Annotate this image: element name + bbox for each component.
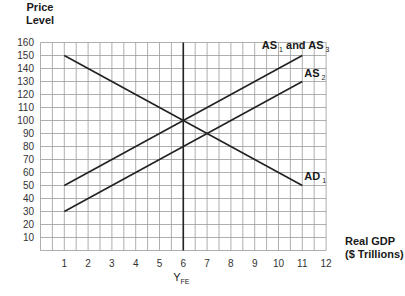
yfe-label: YFE	[173, 271, 190, 285]
x-axis-title-line1: Real GDP	[345, 235, 395, 247]
y-axis-title-line2: Level	[26, 14, 54, 26]
y-tick-label: 50	[23, 180, 35, 191]
full-employment-line: YFE	[173, 43, 190, 286]
x-axis-title-line2: ($ Trillions)	[345, 248, 404, 260]
y-axis-ticks: 102030405060708090100110120130140150160	[17, 37, 34, 243]
y-tick-label: 120	[17, 89, 34, 100]
y-tick-label: 90	[23, 128, 35, 139]
label-as1-and-as3: AS 1 and AS 3	[262, 39, 330, 53]
y-tick-label: 70	[23, 154, 35, 165]
y-tick-label: 60	[23, 167, 35, 178]
y-tick-label: 80	[23, 141, 35, 152]
y-axis-title-line1: Price	[27, 1, 54, 13]
y-tick-label: 150	[17, 50, 34, 61]
x-tick-label: 5	[157, 258, 163, 269]
x-tick-label: 4	[133, 258, 139, 269]
x-tick-label: 1	[62, 258, 68, 269]
label-ad1: AD 1	[304, 170, 326, 184]
x-tick-label: 12	[321, 258, 333, 269]
x-tick-label: 2	[85, 258, 91, 269]
x-tick-label: 7	[204, 258, 210, 269]
y-tick-label: 30	[23, 206, 35, 217]
curve-labels: AD 1AS 1 and AS 3AS 2	[262, 39, 330, 184]
y-tick-label: 140	[17, 63, 34, 74]
x-tick-label: 10	[273, 258, 285, 269]
x-axis-ticks: 123456789101112	[62, 258, 333, 269]
y-tick-label: 40	[23, 193, 35, 204]
y-tick-label: 110	[18, 102, 34, 113]
chart: 102030405060708090100110120130140150160 …	[0, 0, 405, 296]
x-tick-label: 9	[252, 258, 258, 269]
y-tick-label: 160	[17, 37, 34, 48]
y-tick-label: 130	[17, 76, 34, 87]
x-tick-label: 8	[228, 258, 234, 269]
x-tick-label: 11	[297, 258, 308, 269]
x-tick-label: 3	[109, 258, 115, 269]
y-tick-label: 100	[17, 115, 34, 126]
x-tick-label: 6	[181, 258, 187, 269]
y-tick-label: 20	[23, 219, 35, 230]
y-tick-label: 10	[23, 232, 35, 243]
